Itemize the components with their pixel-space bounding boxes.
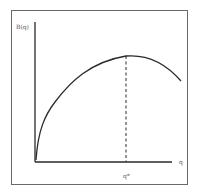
chart-plot: [0, 0, 198, 192]
benefit-curve: [36, 56, 181, 160]
y-axis-label: B(q): [16, 24, 29, 30]
x-axis-label: q: [179, 159, 183, 165]
q-star-tick-label: q*: [123, 173, 130, 179]
